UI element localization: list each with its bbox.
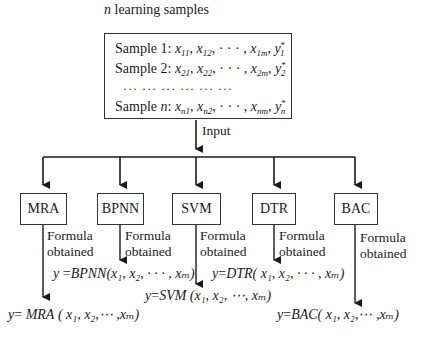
sub: 11 <box>181 48 189 58</box>
formula-dtr: y=DTR( x₁, x₂, · · · , xₘ) <box>212 265 344 282</box>
model-box-dtr: DTR <box>252 193 296 225</box>
equals: = <box>218 266 226 281</box>
fn-name: BPNN <box>71 266 107 281</box>
y-var: y <box>53 266 59 281</box>
formula-obtained-label-mra: Formulaobtained <box>47 228 94 260</box>
sample-label: Sample 2: <box>115 61 175 76</box>
sample-label: Sample 1: <box>115 41 175 56</box>
label-line: obtained <box>47 244 94 260</box>
fn-args: ( x₁, x₂,⋯ ,xₘ) <box>318 307 399 322</box>
fn-args: (x₁, x₂, · · · , xₘ) <box>106 266 194 281</box>
fn-args: ( x₁, x₂,⋯ ,xₘ) <box>58 307 139 322</box>
sub: 12 <box>203 48 212 58</box>
label-line: obtained <box>360 246 407 262</box>
equals: = <box>283 307 291 322</box>
sub: 1m <box>256 48 267 58</box>
label-line: Formula <box>360 230 407 246</box>
diagram-canvas: n learning samples Sample 1: x11, x12, ·… <box>0 0 427 340</box>
label-line: Formula <box>125 228 172 244</box>
sub: n <box>281 106 286 116</box>
model-box-mra: MRA <box>20 193 67 225</box>
sub: 22 <box>203 68 212 78</box>
sub: n1 <box>181 106 190 116</box>
sub: nm <box>257 106 268 116</box>
sample-label-n: n <box>161 99 168 114</box>
learning-samples-box: Sample 1: x11, x12, · · · , x1m, y*1 Sam… <box>104 33 292 119</box>
sub: 21 <box>181 68 190 78</box>
sample-row-1: Sample 1: x11, x12, · · · , x1m, y*1 <box>115 40 285 58</box>
formula-obtained-label-svm: Formulaobtained <box>200 228 247 260</box>
label-line: obtained <box>125 244 172 260</box>
formula-obtained-label-dtr: Formulaobtained <box>279 228 326 260</box>
sample-row-2: Sample 2: x21, x22, · · · , x2m, y*2 <box>115 60 285 78</box>
equals: = <box>151 288 159 303</box>
input-label: Input <box>202 123 231 139</box>
formula-bac: y=BAC( x₁, x₂,⋯ ,xₘ) <box>277 306 399 323</box>
fn-name: DTR <box>226 266 252 281</box>
label-line: Formula <box>200 228 247 244</box>
sample-label: Sample <box>115 99 161 114</box>
title-n: n <box>104 2 111 17</box>
model-box-svm: SVM <box>172 193 221 225</box>
fn-args: ( x₁, x₂, · · · , xₘ) <box>253 266 345 281</box>
sub: 2m <box>257 68 268 78</box>
formula-svm: y=SVM (x₁, x₂, ⋯, xₘ) <box>145 287 271 304</box>
fn-name: SVM <box>159 288 186 303</box>
formula-mra: y= MRA ( x₁, x₂,⋯ ,xₘ) <box>8 306 139 323</box>
model-box-bpnn: BPNN <box>97 193 144 225</box>
label-line: Formula <box>47 228 94 244</box>
fn-name: BAC <box>291 307 317 322</box>
sub: n2 <box>203 106 212 116</box>
equals: = <box>63 266 71 281</box>
sub: 1 <box>280 48 285 58</box>
fn-args: (x₁, x₂, ⋯, xₘ) <box>190 288 271 303</box>
sample-row-n: Sample n: xn1, xn2, · · · , xnm, y*n <box>115 98 285 116</box>
label-line: Formula <box>279 228 326 244</box>
sub: 2 <box>281 68 286 78</box>
equals: = <box>14 307 22 322</box>
formula-bpnn: y =BPNN(x₁, x₂, · · · , xₘ) <box>53 265 195 282</box>
title-text: learning samples <box>111 2 209 17</box>
fn-name: MRA <box>26 307 55 322</box>
formula-obtained-label-bac: Formulaobtained <box>360 230 407 262</box>
formula-obtained-label-bpnn: Formulaobtained <box>125 228 172 260</box>
label-line: obtained <box>279 244 326 260</box>
ellipsis-row: ··· ··· ··· ··· ··· ··· <box>123 82 233 97</box>
label-line: obtained <box>200 244 247 260</box>
model-box-bac: BAC <box>334 193 378 225</box>
diagram-title: n learning samples <box>104 2 209 18</box>
sample-label-suffix: : <box>168 99 175 114</box>
